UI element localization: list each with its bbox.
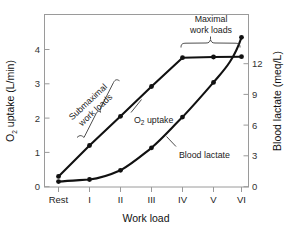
y-tick-label: 0: [35, 181, 40, 192]
maximal-label-line1: Maximal: [195, 14, 228, 24]
maximal-label-line2: work loads: [189, 25, 233, 35]
x-tick-label-ii: II: [118, 194, 123, 205]
x-axis-ticks: [59, 187, 242, 192]
y-tick-label: 2: [35, 113, 40, 124]
y-tick-label: 3: [35, 78, 40, 89]
maximal-work-loads-annotation: Maximal work loads: [189, 14, 233, 35]
o2-uptake-series-label: O2 uptake: [134, 115, 173, 126]
y2-tick-label: 0: [252, 181, 257, 192]
chart-figure: 4 3 2 1 0 12 9 6 3 0: [0, 0, 291, 242]
y-axis-left-title: O2 uptake (L/min): [4, 60, 18, 142]
x-tick-label-v: V: [210, 194, 217, 205]
x-tick-label-vi: VI: [237, 194, 246, 205]
y-tick-label: 1: [35, 147, 40, 158]
x-tick-label-i: I: [88, 194, 91, 205]
chart-svg: 4 3 2 1 0 12 9 6 3 0: [0, 0, 291, 242]
y2-tick-label: 12: [252, 58, 263, 69]
y-tick-label: 4: [35, 44, 40, 55]
y-axis-right-title-text: Blood lactate (meq/L): [271, 51, 283, 151]
x-tick-label-iv: IV: [178, 194, 188, 205]
y-axis-left-tick-labels: 4 3 2 1 0: [35, 44, 40, 192]
svg-text:O2 uptake (L/min): O2 uptake (L/min): [4, 60, 18, 142]
x-axis-tick-labels: Rest I II III IV V VI: [49, 194, 246, 205]
y-axis-right-tick-labels: 12 9 6 3 0: [252, 58, 263, 192]
y2-tick-label: 9: [252, 89, 257, 100]
y2-tick-label: 3: [252, 150, 257, 161]
x-tick-label-rest: Rest: [49, 194, 69, 205]
y2-tick-label: 6: [252, 120, 257, 131]
y-axis-right-title: Blood lactate (meq/L): [271, 51, 283, 151]
y-axis-title-rest: uptake (L/min): [4, 60, 16, 130]
y-axis-title-main: O: [4, 134, 16, 142]
x-axis-title: Work load: [122, 212, 169, 224]
o2-label-rest: uptake: [144, 115, 173, 125]
x-tick-label-iii: III: [148, 194, 156, 205]
blood-lactate-series-label: Blood lactate: [179, 150, 230, 160]
